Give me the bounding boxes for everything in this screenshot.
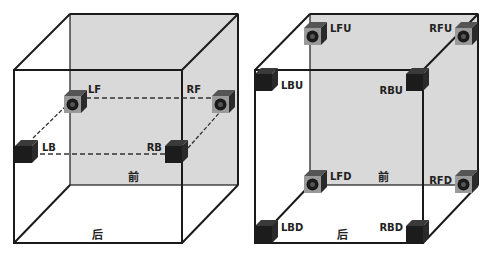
speaker-lf — [64, 90, 87, 113]
speaker-label: RB — [147, 142, 162, 153]
speaker-front-face — [255, 226, 272, 243]
speaker-label: LBD — [281, 222, 303, 233]
speaker-cone-center — [310, 34, 315, 39]
right-cube-edge — [255, 14, 310, 70]
speaker-label: LB — [42, 142, 56, 153]
connection-lb-lf — [33, 106, 66, 138]
front-face-label: 前 — [128, 170, 139, 184]
speaker-rfu — [455, 22, 478, 45]
left-cube-edge — [14, 14, 70, 70]
speaker-front-face — [15, 146, 32, 163]
speaker-lfu — [304, 22, 327, 45]
speaker-cone-center — [461, 182, 466, 187]
speaker-label: LBU — [281, 80, 303, 91]
speaker-cone-center — [461, 34, 466, 39]
speaker-cone-center — [310, 182, 315, 187]
speaker-label: LFU — [330, 23, 351, 34]
right-cube: 前 后 — [255, 14, 478, 243]
speaker-rf — [212, 90, 235, 113]
right-cube-edge — [423, 185, 478, 243]
speaker-lb — [15, 140, 38, 163]
speaker-front-face — [165, 146, 182, 163]
speaker-front-face — [406, 74, 423, 91]
speaker-cone-center — [70, 102, 75, 107]
speaker-label: LFD — [330, 171, 352, 182]
speaker-lbu — [255, 68, 278, 91]
speaker-front-face — [255, 74, 272, 91]
speaker-layout-diagram: 前 后 前 后 LFRFLBRBLFURFULBURBULFDRFDLBDRBD — [0, 0, 490, 254]
front-face-label: 前 — [378, 170, 389, 184]
speaker-rb — [165, 140, 188, 163]
back-face-label: 后 — [337, 228, 348, 242]
speaker-label: RBU — [380, 85, 403, 96]
speaker-lfd — [304, 170, 327, 193]
left-cube-edge — [182, 185, 238, 243]
back-face-label: 后 — [92, 228, 103, 242]
speaker-label: RF — [186, 84, 201, 95]
speaker-label: LF — [88, 84, 101, 95]
speaker-rbu — [406, 68, 429, 91]
speaker-cone-center — [218, 102, 223, 107]
left-cube: 前 后 — [14, 14, 238, 243]
speaker-rbd — [406, 220, 429, 243]
speaker-lbd — [255, 220, 278, 243]
speaker-label: RFD — [429, 175, 452, 186]
speaker-label: RFU — [429, 23, 452, 34]
speaker-front-face — [406, 226, 423, 243]
speaker-rfd — [455, 170, 478, 193]
speaker-label: RBD — [379, 222, 403, 233]
left-cube-edge — [14, 185, 70, 243]
